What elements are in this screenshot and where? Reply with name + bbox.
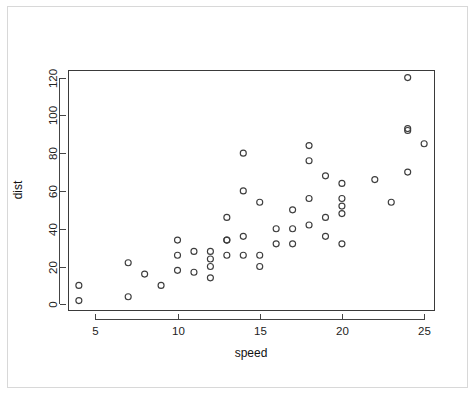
data-point (339, 180, 345, 186)
data-point (339, 203, 345, 209)
data-point (405, 75, 411, 81)
data-point (306, 143, 312, 149)
data-point (207, 275, 213, 281)
figure-root: 020406080100120 510152025 speed dist (0, 0, 475, 395)
data-point (322, 173, 328, 179)
y-tick-label-120: 120 (47, 69, 59, 88)
data-point (339, 241, 345, 247)
data-point (257, 252, 263, 258)
data-point (224, 214, 230, 220)
scatter-plot-canvas: 020406080100120 510152025 speed dist (0, 0, 475, 395)
y-tick-label-60: 60 (47, 185, 59, 198)
y-tick-label-40: 40 (47, 223, 59, 236)
data-point (405, 169, 411, 175)
data-point (273, 241, 279, 247)
data-point (175, 237, 181, 243)
data-point (207, 256, 213, 262)
y-axis-title: dist (11, 180, 25, 199)
data-point (191, 248, 197, 254)
x-tick-label-15: 15 (254, 325, 267, 337)
data-point (290, 241, 296, 247)
x-tick-label-25: 25 (418, 325, 431, 337)
data-point (257, 264, 263, 270)
data-point (125, 260, 131, 266)
y-tick-label-80: 80 (47, 147, 59, 160)
plot-panel-box (69, 71, 435, 311)
data-point (306, 196, 312, 202)
x-tick-label-20: 20 (336, 325, 349, 337)
data-point (339, 211, 345, 217)
data-point (125, 294, 131, 300)
y-tick-label-100: 100 (47, 106, 59, 125)
data-point (290, 226, 296, 232)
data-point (224, 237, 230, 243)
data-point (339, 196, 345, 202)
scatter-points (76, 75, 427, 304)
x-tick-label-10: 10 (172, 325, 185, 337)
data-point (76, 298, 82, 304)
data-point (290, 207, 296, 213)
data-point (306, 158, 312, 164)
x-axis-title: speed (235, 346, 268, 360)
data-point (372, 177, 378, 183)
data-point (175, 252, 181, 258)
data-point (322, 233, 328, 239)
x-axis: 510152025 (92, 314, 431, 337)
data-point (388, 199, 394, 205)
data-point (175, 267, 181, 273)
x-tick-label-5: 5 (92, 325, 98, 337)
y-tick-label-20: 20 (47, 261, 59, 274)
data-point (158, 282, 164, 288)
data-point (224, 252, 230, 258)
data-point (191, 269, 197, 275)
data-point (240, 150, 246, 156)
data-point (142, 271, 148, 277)
data-point (240, 252, 246, 258)
data-point (240, 233, 246, 239)
data-point (257, 199, 263, 205)
data-point (207, 264, 213, 270)
y-tick-label-0: 0 (47, 301, 59, 307)
data-point (273, 226, 279, 232)
data-point (207, 248, 213, 254)
data-point (240, 188, 246, 194)
data-point (306, 222, 312, 228)
y-axis: 020406080100120 (47, 69, 65, 308)
data-point (421, 141, 427, 147)
data-point (76, 282, 82, 288)
data-point (322, 214, 328, 220)
